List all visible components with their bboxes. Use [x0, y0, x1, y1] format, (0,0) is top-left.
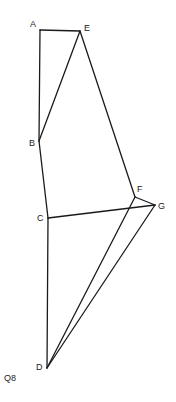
geometry-diagram: A E B C F G D Q8	[0, 0, 176, 402]
diagram-edges	[39, 30, 155, 368]
vertex-label-b: B	[29, 138, 35, 148]
edge-cd	[47, 218, 48, 368]
edge-fd	[47, 197, 135, 368]
edge-gd	[47, 205, 155, 368]
edge-bc	[39, 141, 48, 218]
vertex-label-e: E	[84, 23, 90, 33]
vertex-label-f: F	[137, 184, 143, 194]
edge-ef	[80, 31, 135, 197]
edge-eb	[39, 31, 80, 141]
vertex-label-a: A	[30, 19, 36, 29]
vertex-label-g: G	[158, 201, 165, 211]
vertex-label-c: C	[37, 213, 44, 223]
edge-ae	[40, 30, 80, 31]
figure-caption: Q8	[4, 373, 16, 383]
edge-ab	[39, 30, 40, 141]
edge-fg	[135, 197, 155, 205]
vertex-label-d: D	[36, 362, 43, 372]
diagram-labels: A E B C F G D Q8	[4, 19, 165, 383]
edge-cg	[48, 205, 155, 218]
